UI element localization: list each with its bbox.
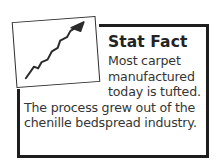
callout-frame-left-border: [17, 89, 20, 158]
callout-frame-right-border: [206, 24, 209, 158]
callout-frame-bottom-border: [17, 155, 209, 158]
callout-frame-top-border: [99, 24, 209, 27]
upward-trend-chart-icon: [12, 16, 101, 88]
stat-fact-callout: Stat Fact Most carpet manufactured today…: [0, 0, 219, 167]
